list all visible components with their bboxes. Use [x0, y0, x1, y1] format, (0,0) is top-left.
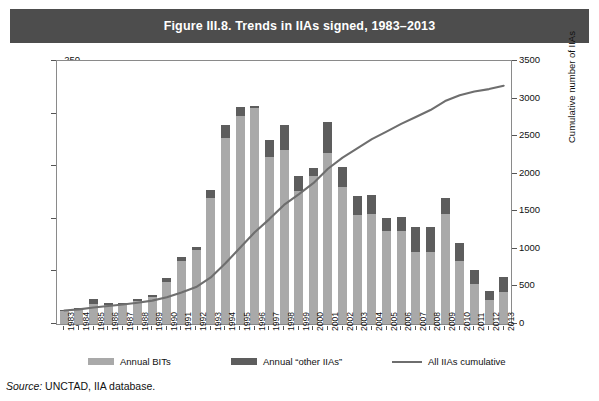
legend-swatch-bits-icon — [88, 358, 114, 365]
x-tick-mark — [342, 326, 343, 330]
y-tick-label-right: 3000 — [519, 93, 561, 103]
x-tick-label-year: 1989 — [155, 312, 164, 331]
figure-container: Figure III.8. Trends in IIAs signed, 198… — [0, 0, 599, 401]
x-tick-mark — [224, 326, 225, 330]
figure-title-bar: Figure III.8. Trends in IIAs signed, 198… — [10, 9, 589, 43]
x-tick-label-year: 2008 — [433, 312, 442, 331]
x-tick-label-year: 2002 — [346, 312, 355, 331]
y-tick-label-right: 1000 — [519, 243, 561, 253]
y-tick-label-right: 0 — [519, 318, 561, 328]
x-tick-label-year: 2006 — [404, 312, 413, 331]
x-tick-mark — [444, 326, 445, 330]
y-tick-label-right: 3500 — [519, 55, 561, 65]
x-tick-label-year: 1994 — [228, 312, 237, 331]
x-tick-mark — [137, 326, 138, 330]
x-tick-mark — [93, 326, 94, 330]
x-tick-mark — [415, 326, 416, 330]
chart-area: Annual number of IIAs Cumulative number … — [0, 43, 599, 358]
x-tick-label-year: 2000 — [316, 312, 325, 331]
x-tick-mark — [268, 326, 269, 330]
legend-swatch-other-icon — [231, 358, 257, 365]
cumulative-line-layer — [57, 61, 511, 324]
y-tick-mark-right — [512, 248, 517, 249]
legend-label-other: Annual “other IIAs” — [263, 356, 342, 367]
x-tick-mark — [429, 326, 430, 330]
x-tick-mark — [122, 326, 123, 330]
x-tick-mark — [283, 326, 284, 330]
figure-title: Figure III.8. Trends in IIAs signed, 198… — [164, 19, 436, 33]
x-tick-mark — [473, 326, 474, 330]
legend-label-bits: Annual BITs — [120, 356, 171, 367]
x-tick-mark — [503, 326, 504, 330]
legend-item-all-iias-cumulative: All IIAs cumulative — [392, 356, 506, 367]
x-tick-label-year: 2003 — [360, 312, 369, 331]
x-tick-label-year: 1998 — [287, 312, 296, 331]
x-tick-label-year: 1995 — [243, 312, 252, 331]
y-axis-left-title: Annual number of IIAs — [0, 49, 1, 143]
x-tick-mark — [327, 326, 328, 330]
y-tick-label-right: 1500 — [519, 205, 561, 215]
x-tick-mark — [312, 326, 313, 330]
cumulative-line — [64, 86, 503, 311]
x-tick-label-year: 1991 — [184, 312, 193, 331]
x-tick-label-year: 2011 — [477, 313, 486, 331]
y-tick-label-right: 2500 — [519, 130, 561, 140]
x-tick-label-year: 2010 — [463, 312, 472, 331]
x-tick-mark — [488, 326, 489, 330]
source-note: Source: UNCTAD, IIA database. — [6, 380, 155, 392]
x-tick-label-year: 1990 — [170, 312, 179, 331]
x-tick-mark — [298, 326, 299, 330]
x-tick-mark — [400, 326, 401, 330]
x-tick-mark — [254, 326, 255, 330]
x-tick-mark — [210, 326, 211, 330]
x-tick-label-year: 2007 — [419, 312, 428, 331]
legend-item-annual-other-iias: Annual “other IIAs” — [231, 356, 342, 367]
x-tick-mark — [107, 326, 108, 330]
x-tick-label-year: 1987 — [126, 312, 135, 331]
chart-legend: Annual BITs Annual “other IIAs” All IIAs… — [0, 355, 599, 373]
x-tick-label-year: 1985 — [97, 312, 106, 331]
x-tick-label-year: 1983 — [67, 312, 76, 331]
x-tick-label-year: 1996 — [258, 312, 267, 331]
legend-item-annual-bits: Annual BITs — [88, 356, 171, 367]
x-tick-mark — [166, 326, 167, 330]
y-tick-mark-right — [512, 60, 517, 61]
source-label: Source: — [6, 380, 42, 392]
legend-swatch-line-icon — [392, 361, 422, 363]
x-tick-label-year: 1992 — [199, 312, 208, 331]
y-tick-label-right: 500 — [519, 280, 561, 290]
x-tick-label-year: 2004 — [375, 312, 384, 331]
x-tick-label-year: 1993 — [214, 312, 223, 331]
x-tick-mark — [371, 326, 372, 330]
x-tick-mark — [151, 326, 152, 330]
source-text: UNCTAD, IIA database. — [42, 380, 155, 392]
y-tick-mark-right — [512, 285, 517, 286]
y-tick-mark-right — [512, 135, 517, 136]
x-tick-label-year: 2013 — [507, 312, 516, 331]
y-tick-mark-right — [512, 210, 517, 211]
y-tick-mark-right — [512, 98, 517, 99]
x-tick-label-year: 1984 — [82, 312, 91, 331]
x-tick-mark — [386, 326, 387, 330]
x-tick-label-year: 2005 — [390, 312, 399, 331]
x-tick-label-year: 2001 — [331, 312, 340, 331]
x-tick-label-year: 1986 — [111, 312, 120, 331]
x-tick-mark — [356, 326, 357, 330]
x-tick-label-year: 1997 — [272, 312, 281, 331]
y-tick-label-right: 2000 — [519, 168, 561, 178]
x-tick-mark — [180, 326, 181, 330]
y-tick-mark-right — [512, 173, 517, 174]
x-tick-label-year: 1988 — [141, 312, 150, 331]
x-tick-mark — [239, 326, 240, 330]
x-tick-mark — [195, 326, 196, 330]
x-tick-label-year: 2009 — [448, 312, 457, 331]
x-tick-mark — [63, 326, 64, 330]
legend-label-cumulative: All IIAs cumulative — [428, 356, 506, 367]
plot-area — [56, 60, 512, 325]
x-tick-label-year: 1999 — [302, 312, 311, 331]
x-tick-mark — [459, 326, 460, 330]
x-tick-mark — [78, 326, 79, 330]
y-axis-right-title: Cumulative number of IIAs — [566, 31, 577, 143]
x-tick-label-year: 2012 — [492, 312, 501, 331]
